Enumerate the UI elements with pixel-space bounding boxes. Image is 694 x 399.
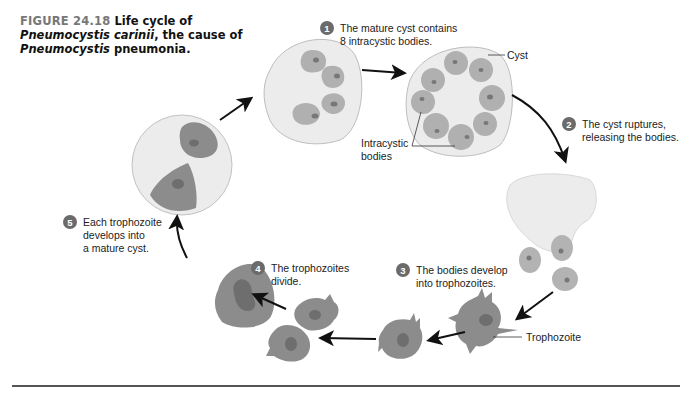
bottom-rule [12, 385, 680, 387]
arrow-small-to-dividing [322, 338, 376, 339]
arrow-bodies-to-trophozoite [518, 292, 553, 318]
step-5-badge: 5 [63, 215, 77, 229]
arrow-mature-to-rupture [512, 95, 565, 160]
step-1: 1 The mature cyst contains 8 intracystic… [320, 22, 457, 48]
label-cyst: Cyst [507, 49, 528, 62]
mature-cyst [406, 47, 512, 156]
step-3-text: The bodies develop into trophozoites. [416, 264, 508, 290]
trophozoite-spiky [448, 288, 522, 354]
step-2-badge: 2 [562, 117, 576, 131]
trophozoite-small [378, 313, 422, 359]
precyst [132, 115, 232, 215]
step-1-text: The mature cyst contains 8 intracystic b… [340, 22, 457, 48]
life-cycle-diagram [0, 0, 694, 399]
step-4-text: The trophozoites divide. [271, 262, 349, 288]
step-4-badge: 4 [251, 261, 265, 275]
step-1-badge: 1 [320, 21, 334, 35]
arrow-early-to-mature [362, 70, 403, 73]
step-2: 2 The cyst ruptures, releasing the bodie… [562, 118, 679, 144]
step-5-text: Each trophozoite develops into a mature … [83, 216, 162, 255]
step-5: 5 Each trophozoite develops into a matur… [63, 216, 162, 255]
label-intracystic-bodies: Intracystic bodies [361, 137, 408, 163]
label-trophozoite: Trophozoite [526, 331, 581, 344]
step-2-text: The cyst ruptures, releasing the bodies. [582, 118, 679, 144]
step-3-badge: 3 [396, 263, 410, 277]
step-3: 3 The bodies develop into trophozoites. [396, 264, 508, 290]
step-4: 4 The trophozoites divide. [251, 262, 349, 288]
ruptured-cyst [507, 174, 597, 291]
arrow-large-to-precyst [177, 218, 187, 258]
arrow-5-to-early-cyst [220, 99, 250, 120]
early-cyst [264, 39, 362, 143]
